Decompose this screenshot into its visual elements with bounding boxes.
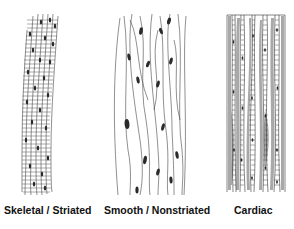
smooth-muscle-illustration	[100, 0, 210, 200]
cardiac-muscle-illustration	[205, 0, 294, 200]
skeletal-label: Skeletal / Striated	[4, 204, 92, 216]
cardiac-label: Cardiac	[234, 204, 273, 216]
smooth-label: Smooth / Nonstriated	[104, 204, 210, 216]
smooth-muscle-panel	[100, 0, 210, 200]
skeletal-muscle-illustration	[0, 0, 100, 200]
cardiac-muscle-panel	[205, 0, 294, 200]
skeletal-muscle-panel	[0, 0, 100, 200]
